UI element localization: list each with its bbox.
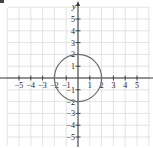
x-tick-label: 1 — [88, 81, 92, 90]
y-tick-label: −4 — [66, 121, 75, 130]
x-tick-label: 5 — [135, 81, 139, 90]
y-tick-label: 1 — [71, 62, 75, 71]
x-tick-label: 4 — [123, 81, 127, 90]
y-tick-label: −3 — [66, 109, 75, 118]
y-tick-label: 3 — [71, 39, 75, 48]
y-tick-label: 4 — [71, 27, 75, 36]
coordinate-plane: −5−4−3−2−112345−5−4−3−2−112345 y — [0, 0, 153, 148]
x-tick-label: 3 — [111, 81, 115, 90]
y-tick-label: −5 — [66, 133, 75, 142]
x-tick-label: −3 — [38, 81, 47, 90]
y-tick-label: −1 — [66, 86, 75, 95]
y-axis-label: y — [71, 1, 76, 11]
x-tick-label: −4 — [27, 81, 36, 90]
y-axis-arrow-icon — [76, 1, 80, 6]
x-tick-label: −5 — [15, 81, 24, 90]
y-tick-label: 5 — [71, 15, 75, 24]
